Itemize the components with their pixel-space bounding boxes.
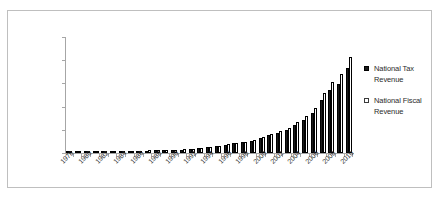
x-axis-label-slot: 1984 [117, 158, 126, 188]
legend-label: National Tax Revenue [374, 64, 436, 85]
bar-national-fiscal-revenue [218, 146, 221, 153]
bar-national-fiscal-revenue [235, 143, 238, 153]
x-axis-label-slot: 1980 [82, 158, 91, 188]
bar-group [257, 37, 266, 153]
bar-national-fiscal-revenue [253, 140, 256, 153]
x-axis-label-slot: 1982 [100, 158, 109, 188]
bar-group [152, 37, 161, 153]
bar-group [292, 37, 301, 153]
x-axis-label-slot: 1990 [170, 158, 179, 188]
bar-group [117, 37, 126, 153]
bar-national-fiscal-revenue [349, 57, 352, 153]
bar-national-fiscal-revenue [78, 151, 81, 153]
bar-national-fiscal-revenue [183, 149, 186, 153]
bar-national-fiscal-revenue [331, 82, 334, 153]
bar-group [179, 37, 188, 153]
x-axis-label-slot: 1988 [152, 158, 161, 188]
bar-group [310, 37, 319, 153]
legend-label: National Fiscal Revenue [374, 96, 436, 117]
bar-group [222, 37, 231, 153]
bar-series-container [65, 37, 353, 153]
bar-group [187, 37, 196, 153]
bar-group [240, 37, 249, 153]
bar-national-fiscal-revenue [165, 150, 168, 153]
bar-group [336, 37, 345, 153]
x-axis-labels: 1978198019821984198619881990199219941996… [65, 158, 353, 188]
x-axis-label-slot: 1992 [187, 158, 196, 188]
bar-group [144, 37, 153, 153]
chart-legend: National Tax RevenueNational Fiscal Reve… [364, 64, 436, 128]
bar-national-fiscal-revenue [148, 150, 151, 153]
bar-group [91, 37, 100, 153]
bar-group [196, 37, 205, 153]
bar-group [345, 37, 354, 153]
bar-national-fiscal-revenue [96, 151, 99, 153]
bar-group [82, 37, 91, 153]
bar-group [161, 37, 170, 153]
legend-entry: National Fiscal Revenue [364, 96, 436, 117]
bar-national-fiscal-revenue [200, 148, 203, 153]
bar-group [318, 37, 327, 153]
bar-group [283, 37, 292, 153]
bar-national-fiscal-revenue [113, 151, 116, 153]
x-axis-label-slot: 1996 [222, 158, 231, 188]
chart-frame: 020,00040,00060,00080,000100,000 1978198… [7, 10, 432, 188]
bar-group [213, 37, 222, 153]
bar-group [126, 37, 135, 153]
x-axis-label-slot: 2010 [345, 158, 354, 188]
bar-group [74, 37, 83, 153]
bar-national-fiscal-revenue [340, 74, 343, 153]
bar-national-fiscal-revenue [305, 116, 308, 153]
legend-swatch-hollow-icon [364, 98, 369, 103]
bar-group [109, 37, 118, 153]
x-axis-label-slot: 1978 [65, 158, 74, 188]
bar-national-fiscal-revenue [323, 93, 326, 153]
bar-national-fiscal-revenue [131, 151, 134, 153]
x-axis-tick-label: 1978 [59, 149, 75, 165]
x-axis-label-slot: 2002 [275, 158, 284, 188]
bar-group [231, 37, 240, 153]
legend-entry: National Tax Revenue [364, 64, 436, 85]
bar-group [248, 37, 257, 153]
x-axis-label-slot: 1998 [240, 158, 249, 188]
x-axis-label-slot: 2000 [257, 158, 266, 188]
x-axis-label-slot: 1986 [135, 158, 144, 188]
bar-group [301, 37, 310, 153]
bar-national-fiscal-revenue [288, 128, 291, 153]
bar-group [275, 37, 284, 153]
bar-group [266, 37, 275, 153]
bar-group [135, 37, 144, 153]
bar-group [205, 37, 214, 153]
bar-group [65, 37, 74, 153]
bar-national-fiscal-revenue [296, 122, 299, 153]
bar-national-fiscal-revenue [270, 134, 273, 153]
bar-group [327, 37, 336, 153]
legend-swatch-filled-icon [364, 66, 369, 71]
bar-group [170, 37, 179, 153]
x-axis-label-slot: 2006 [310, 158, 319, 188]
bar-group [100, 37, 109, 153]
x-axis-label-slot: 2004 [292, 158, 301, 188]
bar-national-fiscal-revenue [314, 108, 317, 153]
x-axis-label-slot: 1994 [205, 158, 214, 188]
x-axis-label-slot: 2008 [327, 158, 336, 188]
